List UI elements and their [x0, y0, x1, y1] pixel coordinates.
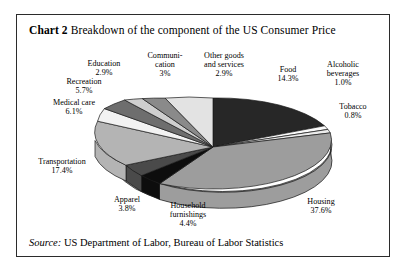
pie-label-food: Food 14.3% [265, 65, 311, 83]
pie-label-other-goods: Other goods and services 2.9% [189, 51, 259, 79]
pie-label-tobacco: Tobacco 0.8% [329, 102, 377, 120]
chart-source: Source: US Department of Labor, Bureau o… [29, 237, 283, 248]
pie-label-transportation: Transportation 17.4% [23, 157, 101, 175]
pie-label-housing: Housing 37.6% [293, 197, 349, 215]
pie-label-medical: Medical care 6.1% [38, 98, 110, 116]
pie-chart-plot: Education 2.9% Communi- cation 3% Other … [17, 15, 391, 258]
pie-label-apparel: Apparel 3.8% [103, 195, 151, 213]
source-label: Source: [29, 237, 61, 248]
pie-label-household: Household furnishings 4.4% [157, 201, 219, 229]
chart-frame: Chart 2 Breakdown of the component of th… [16, 14, 390, 257]
pie-label-recreation: Recreation 5.7% [53, 77, 115, 95]
pie-label-alcoholic: Alcoholic beverages 1.0% [313, 60, 373, 88]
source-text: US Department of Labor, Bureau of Labor … [64, 237, 283, 248]
pie-label-education: Education 2.9% [71, 59, 137, 77]
pie-label-communication: Communi- cation 3% [139, 51, 191, 79]
